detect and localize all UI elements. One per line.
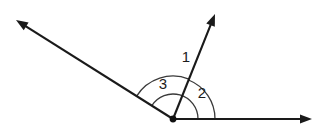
angle-label-2: 2 — [198, 84, 206, 101]
angle-diagram-canvas: 1 2 3 — [0, 0, 320, 130]
arrowhead-right-icon — [300, 114, 312, 123]
angle-label-3: 3 — [159, 75, 167, 92]
arrowhead-upper-right-icon — [206, 14, 215, 27]
arrowhead-upper-left-icon — [16, 20, 29, 30]
ray-group — [16, 14, 312, 124]
angle-label-1: 1 — [182, 48, 190, 65]
ray-upper-left — [22, 24, 173, 119]
vertex-point — [170, 116, 177, 123]
angle-diagram-svg: 1 2 3 — [0, 0, 320, 130]
